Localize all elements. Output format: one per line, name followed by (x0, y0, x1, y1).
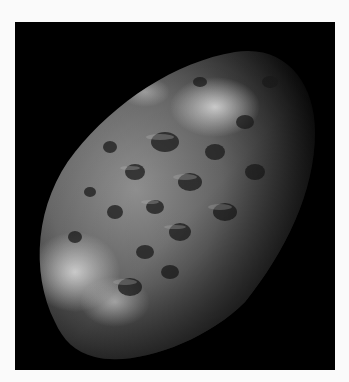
moon-photograph (15, 22, 335, 370)
crater-field (15, 22, 335, 370)
moon-illustration (15, 22, 335, 370)
